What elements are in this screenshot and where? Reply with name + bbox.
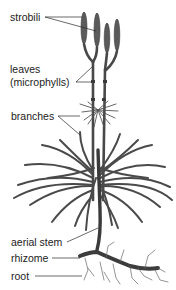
upper-whorl <box>80 101 118 127</box>
strobili-cones <box>81 12 120 53</box>
label-microphylls: (microphylls) <box>10 76 70 88</box>
horsetail-diagram: strobili leaves (microphylls) branches a… <box>0 0 176 290</box>
main-stem <box>97 150 100 250</box>
label-aerial-stem: aerial stem <box>11 236 62 248</box>
label-leaves: leaves <box>10 63 40 75</box>
label-root: root <box>11 270 29 282</box>
rhizome <box>80 252 158 269</box>
label-strobili: strobili <box>10 11 40 23</box>
label-branches: branches <box>11 110 54 122</box>
label-rhizome: rhizome <box>11 252 48 264</box>
